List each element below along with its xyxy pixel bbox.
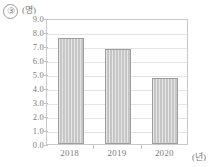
y-axis-tick-label: 0.0 bbox=[22, 141, 44, 150]
y-axis-tick-mark bbox=[44, 103, 48, 104]
y-axis-tick-labels: 9.08.07.06.05.04.03.02.01.00.0 bbox=[20, 19, 44, 145]
y-axis-tick-mark bbox=[44, 47, 48, 48]
x-axis-tick-labels: 201820192020 bbox=[46, 149, 188, 163]
x-axis-unit-label: (년) bbox=[192, 150, 206, 163]
x-axis-tick-label: 2019 bbox=[97, 149, 137, 158]
y-axis-tick-label: 9.0 bbox=[22, 15, 44, 24]
y-axis-tick-label: 6.0 bbox=[22, 57, 44, 66]
y-axis-tick-label: 2.0 bbox=[22, 113, 44, 122]
item-number-marker: ③ bbox=[3, 4, 18, 19]
y-axis-tick-mark bbox=[44, 89, 48, 90]
x-axis-tick-label: 2020 bbox=[144, 149, 184, 158]
y-axis-tick-label: 8.0 bbox=[22, 29, 44, 38]
y-axis-tick-label: 1.0 bbox=[22, 127, 44, 136]
x-axis-tick-mark bbox=[141, 145, 142, 149]
x-axis-tick-label: 2018 bbox=[50, 149, 90, 158]
x-axis-tick-mark bbox=[93, 145, 94, 149]
bar bbox=[58, 38, 84, 144]
y-axis-tick-mark bbox=[44, 61, 48, 62]
plot-area bbox=[46, 19, 188, 145]
y-axis-tick-label: 7.0 bbox=[22, 43, 44, 52]
bar bbox=[152, 78, 178, 144]
bar-chart-figure: ③ (명) 9.08.07.06.05.04.03.02.01.00.0 201… bbox=[0, 0, 215, 167]
y-axis-tick-label: 5.0 bbox=[22, 71, 44, 80]
y-axis-tick-label: 3.0 bbox=[22, 99, 44, 108]
y-axis-tick-label: 4.0 bbox=[22, 85, 44, 94]
y-axis-tick-mark bbox=[44, 19, 48, 20]
bar bbox=[105, 49, 131, 144]
y-axis-tick-mark bbox=[44, 145, 48, 146]
y-axis-tick-mark bbox=[44, 33, 48, 34]
gridline bbox=[47, 34, 187, 35]
y-axis-tick-mark bbox=[44, 117, 48, 118]
y-axis-tick-mark bbox=[44, 131, 48, 132]
y-axis-tick-mark bbox=[44, 75, 48, 76]
